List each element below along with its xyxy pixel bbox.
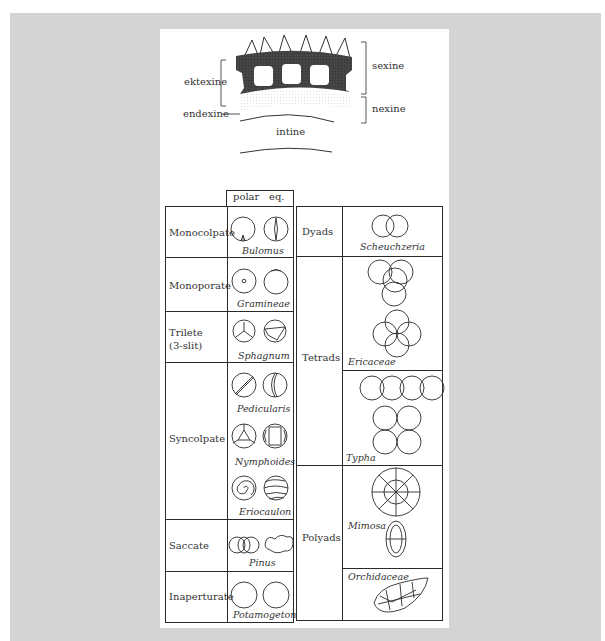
- pollen-grain-illustrations-right: [0, 0, 605, 641]
